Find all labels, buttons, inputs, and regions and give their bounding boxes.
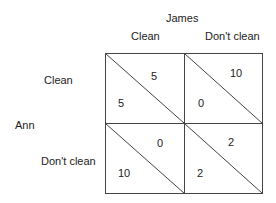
payoff-james-clean-dontclean: 10 — [230, 67, 242, 79]
payoff-ann-clean-dontclean: 0 — [198, 97, 204, 109]
payoff-ann-dontclean-dontclean: 2 — [197, 167, 203, 179]
payoff-ann-clean-clean: 5 — [118, 97, 124, 109]
payoff-ann-dontclean-clean: 10 — [118, 167, 130, 179]
payoff-grid — [0, 0, 276, 203]
payoff-james-dontclean-clean: 0 — [157, 137, 163, 149]
payoff-james-clean-clean: 5 — [151, 70, 157, 82]
payoff-james-dontclean-dontclean: 2 — [228, 136, 234, 148]
